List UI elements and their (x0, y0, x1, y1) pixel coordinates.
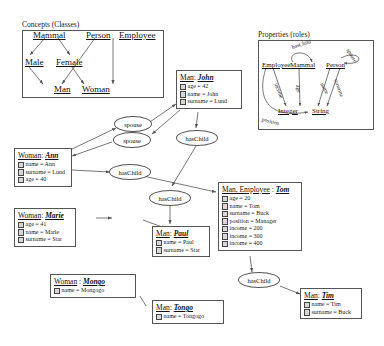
attribute-bullet-icon (18, 222, 24, 229)
instance-box-mongo[interactable]: Woman : Mongo name = Mongogo (50, 274, 136, 298)
edge-john-haschild2 (196, 112, 198, 128)
attribute-text: name = Tom (230, 203, 260, 211)
instance-attribute: name = Tim (304, 301, 358, 309)
instance-name-tongo: Tongo (174, 303, 193, 312)
instance-type-paul: Man (156, 229, 170, 238)
concepts-frame-title: Concepts (Classes) (22, 20, 79, 29)
edge-ann-spouse1 (70, 128, 116, 150)
instance-attribute: position = Manager (222, 218, 298, 226)
instance-attribute: age = 40 (18, 176, 68, 184)
instance-header-paul: Man: Paul (156, 229, 206, 238)
attribute-bullet-icon (222, 218, 228, 225)
relation-ellipse-spouse-2[interactable]: spouse (113, 132, 151, 148)
attribute-text: surname = Star (164, 247, 200, 255)
instance-box-john[interactable]: Man: John age = 42 name = John surname =… (176, 70, 242, 109)
instance-attribute: name = John (180, 91, 238, 99)
properties-frame-title: Properties (roles) (258, 30, 310, 39)
class-man[interactable]: Man (54, 84, 71, 94)
attribute-text: name = Tongogo (164, 313, 205, 321)
attribute-bullet-icon (304, 309, 310, 316)
attribute-bullet-icon (156, 247, 162, 254)
attribute-text: surname = Buck (230, 210, 269, 218)
attribute-text: income = 200 (230, 225, 263, 233)
instance-box-ann[interactable]: Woman: Ann name = Ann surname = Lund age… (14, 148, 72, 187)
attribute-bullet-icon (156, 314, 162, 321)
diagram-canvas: Concepts (Classes) Mammal Person Employe… (0, 0, 384, 346)
class-woman[interactable]: Woman (82, 84, 110, 94)
prop-node-integer[interactable]: Integer (278, 107, 298, 115)
attribute-bullet-icon (18, 162, 24, 169)
attribute-text: surname = Lund (26, 169, 65, 177)
instance-attribute: name = Ann (18, 161, 68, 169)
edge-spouse2-ann (72, 142, 112, 156)
attribute-bullet-icon (222, 226, 228, 233)
instance-attribute: income = 400 (222, 240, 298, 248)
instance-name-tim: Tim (322, 291, 334, 300)
attribute-bullet-icon (222, 196, 228, 203)
attribute-bullet-icon (18, 169, 24, 176)
instance-header-tongo: Man: Tongo (156, 303, 220, 312)
instance-header-tom: Man, Employee : Tom (222, 185, 298, 194)
edge-haschild4-tim (280, 286, 300, 294)
instance-header-ann: Woman: Ann (18, 151, 68, 160)
attribute-bullet-icon (18, 229, 24, 236)
instance-name-tom: Tom (276, 185, 289, 194)
instance-attribute: age = 41 (18, 221, 72, 229)
edge-tom-haschild4 (250, 256, 252, 272)
edge-ann-haschild1 (72, 170, 110, 172)
instance-name-marie: Marie (45, 211, 64, 220)
instance-box-tongo[interactable]: Man: Tongo name = Tongogo (152, 300, 224, 324)
attribute-text: name = Tim (312, 301, 341, 309)
prop-edge-label-age: age (295, 84, 302, 93)
attribute-bullet-icon (222, 203, 228, 210)
instance-attribute: name = Tom (222, 203, 298, 211)
instance-attribute: surname = Buck (222, 210, 298, 218)
class-female[interactable]: Female (56, 57, 83, 67)
prop-node-employee[interactable]: Employee (262, 61, 290, 69)
relation-ellipse-haschild-4[interactable]: hasChild (238, 272, 280, 288)
prop-node-person[interactable]: Person (326, 61, 345, 69)
attribute-text: surname = Buck (312, 309, 351, 317)
attribute-text: name = Marie (26, 229, 60, 237)
attribute-text: income = 400 (230, 240, 263, 248)
instance-box-marie[interactable]: Woman: Marie age = 41 name = Marie surna… (14, 208, 76, 247)
attribute-text: name = Paul (164, 239, 194, 247)
relation-ellipse-haschild-2[interactable]: hasChild (176, 130, 218, 146)
instance-header-john: Man: John (180, 73, 238, 82)
attribute-text: age = 41 (26, 221, 47, 229)
edge-john-spouse2 (152, 110, 180, 134)
attribute-text: name = John (188, 91, 219, 99)
attribute-bullet-icon (54, 288, 60, 295)
instance-name-paul: Paul (174, 229, 189, 238)
attribute-bullet-icon (222, 241, 228, 248)
instance-box-tim[interactable]: Man: Tim name = Tim surname = Buck (300, 288, 362, 319)
instance-type-tom: Man, Employee (222, 185, 270, 194)
edge-haschild2-down (172, 146, 196, 186)
class-male[interactable]: Male (25, 57, 44, 67)
class-mammal[interactable]: Mammal (33, 30, 66, 40)
instance-type-tongo: Man (156, 303, 170, 312)
instance-attribute: surname = Lund (180, 98, 238, 106)
attribute-text: age = 42 (188, 83, 209, 91)
attribute-bullet-icon (180, 91, 186, 98)
attribute-text: age = 20 (230, 195, 251, 203)
relation-ellipse-spouse-1[interactable]: spouse (114, 116, 152, 132)
instance-box-paul[interactable]: Man: Paul name = Paul surname = Star (152, 226, 210, 257)
class-employee[interactable]: Employee (119, 30, 156, 40)
instance-attribute: surname = Star (156, 247, 206, 255)
relation-ellipse-haschild-1[interactable]: hasChild (109, 164, 151, 180)
attribute-text: surname = Star (26, 236, 62, 244)
instance-box-tom[interactable]: Man, Employee : Tom age = 20 name = Tom … (218, 182, 302, 251)
class-person[interactable]: Person (86, 30, 111, 40)
instance-name-john: John (198, 73, 214, 82)
attribute-text: position = Manager (230, 218, 277, 226)
relation-ellipse-haschild-3[interactable]: hasChild (149, 190, 191, 206)
attribute-text: name = Ann (26, 161, 55, 169)
prop-node-mammal[interactable]: Mammal (290, 61, 315, 69)
instance-attribute: surname = Star (18, 236, 72, 244)
attribute-bullet-icon (18, 177, 24, 184)
instance-attribute: income = 200 (222, 225, 298, 233)
instance-name-mongo: Mongo (83, 277, 105, 286)
prop-node-string[interactable]: String (312, 107, 329, 115)
instance-attribute: surname = Lund (18, 169, 68, 177)
